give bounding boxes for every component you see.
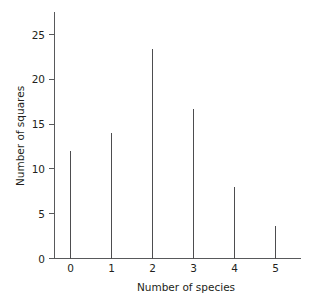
- x-tick-label-3: 3: [190, 262, 197, 274]
- y-tick-label-15: 15: [32, 118, 45, 130]
- chart-background: [0, 0, 331, 305]
- species-squares-needle-plot: 25 20 15 10 5 0 0 1 2 3 4 5: [0, 0, 331, 305]
- y-tick-label-5: 5: [38, 208, 45, 220]
- x-axis-title: Number of species: [137, 281, 235, 293]
- x-tick-label-2: 2: [149, 262, 156, 274]
- x-tick-label-5: 5: [272, 262, 279, 274]
- y-tick-label-20: 20: [32, 73, 45, 85]
- y-tick-label-10: 10: [32, 163, 45, 175]
- x-tick-label-4: 4: [231, 262, 238, 274]
- y-tick-label-0: 0: [38, 253, 45, 265]
- y-tick-label-25: 25: [32, 29, 45, 41]
- x-tick-label-0: 0: [67, 262, 74, 274]
- x-tick-label-1: 1: [108, 262, 115, 274]
- y-axis-title: Number of squares: [14, 86, 26, 186]
- chart-container: 25 20 15 10 5 0 0 1 2 3 4 5: [0, 0, 331, 305]
